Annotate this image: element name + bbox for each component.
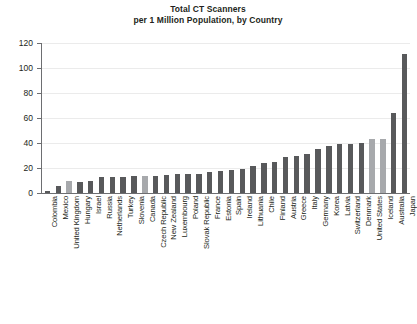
x-axis-category-label: Germany <box>321 196 330 227</box>
bar <box>240 169 245 193</box>
y-axis-tick-label: 80 <box>0 88 33 98</box>
bar <box>110 177 115 193</box>
bar <box>131 176 136 193</box>
bar <box>315 149 320 193</box>
bar-series <box>42 43 410 193</box>
x-axis-category-label: Slovenia <box>137 196 146 224</box>
y-axis-tick-mark <box>37 43 41 44</box>
chart-title-line-1: Total CT Scanners <box>0 4 416 15</box>
bar <box>175 174 180 193</box>
x-axis-line <box>41 193 410 194</box>
x-axis-category-label: Hungary <box>83 196 92 224</box>
bar <box>218 171 223 194</box>
bar <box>402 54 407 193</box>
bar <box>380 139 385 193</box>
bar <box>45 191 50 193</box>
bar <box>56 186 61 194</box>
y-axis-tick-label: 60 <box>0 113 33 123</box>
x-axis-category-label: Colombia <box>50 196 59 227</box>
bar <box>250 166 255 194</box>
x-axis-category-labels: ColombiaMexicoUnited KingdomHungaryIsrae… <box>42 196 410 322</box>
x-axis-category-label: United Kingdom <box>72 196 81 249</box>
x-axis-category-label: Australia <box>397 196 406 225</box>
x-axis-category-label: Czech Republic <box>159 196 168 248</box>
bar <box>120 177 125 193</box>
bar <box>66 181 71 193</box>
x-axis-category-label: United States <box>375 196 384 240</box>
bar <box>359 143 364 193</box>
x-axis-category-label: Japan <box>408 196 417 216</box>
y-axis-tick-label: 100 <box>0 63 33 73</box>
x-axis-category-label: Slovak Republic <box>202 196 211 249</box>
bar <box>153 176 158 194</box>
bar <box>304 154 309 193</box>
x-axis-category-label: Lithuania <box>256 196 265 226</box>
bar <box>391 113 396 193</box>
y-axis-tick-label: 120 <box>0 38 33 48</box>
y-axis-tick-mark <box>37 93 41 94</box>
x-axis-category-label: Chile <box>267 196 276 213</box>
y-axis-tick-label: 40 <box>0 138 33 148</box>
y-axis-tick-mark <box>37 118 41 119</box>
y-axis-tick-labels: 020406080100120 <box>0 0 36 324</box>
x-axis-category-label: Russia <box>105 196 114 219</box>
x-axis-category-label: Canada <box>148 196 157 222</box>
x-axis-category-label: Israel <box>94 196 103 214</box>
page-title: Total CT Scanners per 1 Million Populati… <box>0 4 416 26</box>
x-axis-category-label: Luxembourg <box>180 196 189 237</box>
y-axis-tick-mark <box>37 68 41 69</box>
x-axis-category-label: Turkey <box>126 196 135 218</box>
x-axis-category-label: Austria <box>289 196 298 219</box>
bar <box>326 146 331 194</box>
bar <box>261 163 266 193</box>
x-axis-category-label: Poland <box>191 196 200 219</box>
bar <box>99 177 104 193</box>
bar <box>142 176 147 194</box>
chart-title-line-2: per 1 Million Population, by Country <box>0 15 416 26</box>
x-axis-category-label: Ireland <box>245 196 254 219</box>
x-axis-category-label: Korea <box>332 196 341 216</box>
bar <box>77 182 82 193</box>
x-axis-category-label: Finland <box>278 196 287 220</box>
y-axis-tick-mark <box>37 168 41 169</box>
x-axis-category-label: Estonia <box>224 196 233 221</box>
y-axis-tick-label: 20 <box>0 163 33 173</box>
x-axis-category-label: Latvia <box>343 196 352 216</box>
bar <box>185 174 190 193</box>
y-axis-tick-mark <box>37 143 41 144</box>
x-axis-category-label: Denmark <box>364 196 373 226</box>
bar <box>272 162 277 193</box>
x-axis-category-label: Spain <box>234 196 243 215</box>
bar <box>164 175 169 193</box>
y-axis-tick-mark <box>37 193 41 194</box>
x-axis-category-label: Netherlands <box>115 196 124 236</box>
bar <box>294 156 299 193</box>
x-axis-category-label: Iceland <box>386 196 395 220</box>
bar <box>229 170 234 193</box>
x-axis-category-label: Greece <box>299 196 308 220</box>
bar <box>196 174 201 193</box>
x-axis-category-label: Mexico <box>61 196 70 219</box>
y-axis-tick-label: 0 <box>0 188 33 198</box>
bar <box>207 172 212 193</box>
bar <box>88 181 93 193</box>
x-axis-category-label: Italy <box>310 196 319 209</box>
bar <box>337 144 342 193</box>
bar <box>283 157 288 193</box>
x-axis-category-label: France <box>213 196 222 219</box>
x-axis-category-label: New Zealand <box>169 196 178 240</box>
bar <box>348 144 353 193</box>
bar <box>369 139 374 193</box>
x-axis-category-label: Switzerland <box>353 196 362 234</box>
